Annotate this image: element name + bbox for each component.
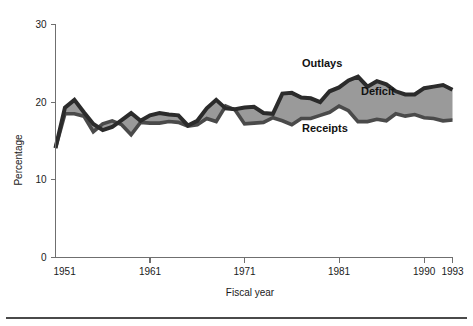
y-tick-label: 30	[35, 19, 47, 30]
outlays-annotation-label: Outlays	[302, 57, 342, 69]
budget-area-chart: 0102030 195119611971198119901993 Percent…	[0, 0, 473, 326]
y-tick-label: 20	[35, 97, 47, 108]
figure-container: 0102030 195119611971198119901993 Percent…	[0, 0, 473, 326]
x-axis-ticks: 195119611971198119901993	[54, 258, 465, 277]
y-tick-label: 10	[35, 174, 47, 185]
x-tick-label: 1961	[139, 266, 162, 277]
y-axis-title: Percentage	[13, 134, 24, 186]
x-tick-label: 1993	[441, 266, 464, 277]
x-axis-title: Fiscal year	[226, 287, 275, 298]
x-tick-label: 1990	[413, 266, 436, 277]
x-tick-label: 1971	[233, 266, 256, 277]
y-tick-label: 0	[41, 252, 47, 263]
deficit-annotation-label: Deficit	[361, 85, 395, 97]
receipts-annotation-label: Receipts	[302, 122, 348, 134]
y-axis-ticks: 0102030	[35, 19, 55, 263]
x-tick-label: 1951	[54, 266, 77, 277]
x-tick-label: 1981	[328, 266, 351, 277]
